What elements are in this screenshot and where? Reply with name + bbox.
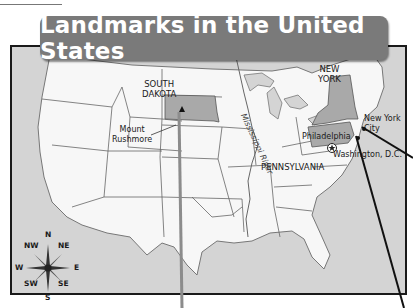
compass-w: W — [15, 263, 23, 272]
map-title: Landmarks in the United States — [40, 12, 388, 64]
compass-ne: NE — [58, 241, 69, 250]
title-banner: Landmarks in the United States — [40, 16, 388, 60]
compass-se: SE — [58, 279, 69, 288]
label-mount-rushmore: Mount Rushmore — [112, 125, 152, 145]
compass-rose: N NW NE W E SW SE S — [18, 238, 78, 298]
label-new-york-city: New York City — [364, 114, 401, 134]
label-washington-dc: Washington, D.C. — [333, 150, 402, 160]
label-philadelphia: Philadelphia — [302, 132, 351, 142]
state-south-dakota — [165, 95, 219, 122]
label-new-york: NEW YORK — [318, 64, 341, 84]
top-rule — [0, 4, 62, 5]
compass-s: S — [45, 293, 50, 302]
label-south-dakota: SOUTH DAKOTA — [142, 79, 176, 99]
compass-sw: SW — [24, 279, 38, 288]
compass-e: E — [74, 263, 79, 272]
compass-nw: NW — [24, 241, 39, 250]
dot-icon — [356, 136, 360, 140]
compass-n: N — [45, 230, 51, 239]
